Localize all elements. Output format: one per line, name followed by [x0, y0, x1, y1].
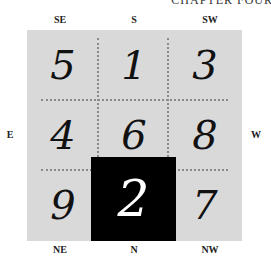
chapter-header: CHAPTER FOUR [171, 0, 271, 8]
grid-cell-e: 4 [27, 100, 99, 170]
grid-cell-s: 1 [98, 30, 170, 100]
grid-cell-w: 8 [169, 100, 241, 170]
grid-cell-nw: 7 [169, 170, 241, 240]
direction-s: S [114, 14, 154, 25]
direction-e: E [0, 129, 30, 140]
direction-n: N [114, 244, 154, 255]
grid-cell-ne: 9 [27, 170, 99, 240]
grid-cell-sw: 3 [169, 30, 241, 100]
grid-cell-n-highlighted: 2 [91, 157, 176, 241]
direction-ne: NE [40, 244, 80, 255]
lo-shu-grid: 5 1 3 4 6 8 9 2 7 [27, 30, 242, 241]
grid-cell-se: 5 [27, 30, 99, 100]
direction-se: SE [40, 14, 80, 25]
direction-nw: NW [190, 244, 230, 255]
direction-sw: SW [190, 14, 230, 25]
